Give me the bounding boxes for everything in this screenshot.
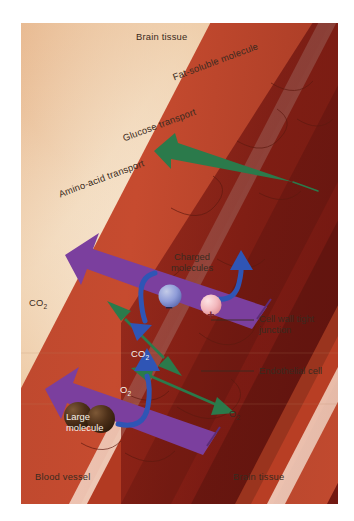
- label-large-line1: Large: [66, 411, 104, 422]
- label-large-line2: molecule: [66, 422, 104, 433]
- ion-positive-symbol: +: [207, 307, 215, 322]
- co2-sub-outer: 2: [43, 303, 47, 310]
- label-brain-tissue-top: Brain tissue: [136, 31, 187, 42]
- label-charged-line2: molecules: [149, 262, 235, 273]
- label-large-molecule: Large molecule: [66, 411, 104, 433]
- o2-base-outer: O: [229, 408, 237, 419]
- label-co2-vessel-side: CO2: [131, 348, 149, 361]
- ion-negative-symbol: −: [165, 300, 173, 315]
- callout-cwtj-line1: Cell wall tight: [259, 313, 314, 324]
- label-o2-vessel-side: O2: [120, 384, 131, 397]
- label-brain-tissue-bottom: Brain tissue: [233, 471, 284, 482]
- co2-sub-inner: 2: [145, 354, 149, 361]
- callout-cell-wall-tight-junction: Cell wall tight junction: [259, 313, 314, 335]
- co2-base-inner: CO: [131, 348, 145, 359]
- callout-endothelial-cell: Endothelial cell: [259, 365, 322, 376]
- o2-sub-outer: 2: [237, 414, 241, 421]
- label-co2-brain-side: CO2: [29, 297, 47, 310]
- callout-endothelial-line1: Endothelial cell: [259, 365, 322, 376]
- figure-canvas: Brain tissue Brain tissue Blood vessel F…: [0, 0, 354, 521]
- label-o2-brain-side: O2: [229, 408, 240, 421]
- label-charged-molecules: Charged molecules: [149, 251, 235, 273]
- o2-base-inner: O: [120, 384, 128, 395]
- o2-sub-inner: 2: [128, 390, 132, 397]
- label-charged-line1: Charged: [149, 251, 235, 262]
- callout-cwtj-line2: junction: [259, 324, 314, 335]
- illustration-frame: Brain tissue Brain tissue Blood vessel F…: [21, 23, 338, 504]
- label-blood-vessel: Blood vessel: [35, 471, 91, 482]
- co2-base-outer: CO: [29, 297, 43, 308]
